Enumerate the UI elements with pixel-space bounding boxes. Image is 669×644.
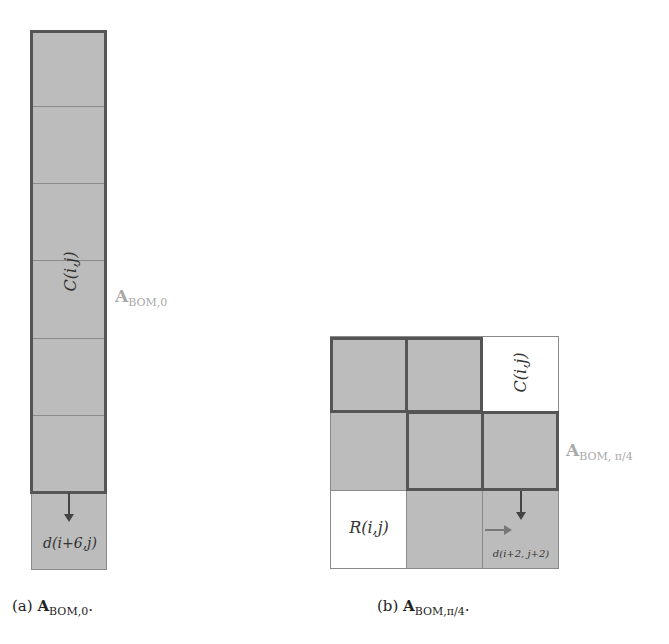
caption-b: (b) ABOM,π/4. bbox=[377, 597, 470, 618]
dependency-label: d(i+6,j) bbox=[33, 535, 107, 551]
matrix-label-sub: BOM,0 bbox=[128, 296, 167, 309]
caption-suffix: . bbox=[465, 597, 470, 615]
matrix-label-main: A bbox=[115, 286, 128, 306]
caption-prefix: (b) bbox=[377, 597, 398, 615]
block-outline-cell-0-0 bbox=[330, 337, 408, 413]
matrix-label-sub: BOM, π/4 bbox=[579, 450, 633, 463]
dependency-arrow-down bbox=[68, 493, 70, 515]
block-label-r: R(i,j) bbox=[333, 518, 405, 537]
dependency-label: d(i+2, j+2) bbox=[484, 548, 558, 559]
caption-a: (a) ABOM,0. bbox=[12, 597, 93, 618]
caption-sub: BOM,π/4 bbox=[415, 605, 465, 618]
grid-cell-2-1 bbox=[406, 490, 483, 569]
caption-main: A bbox=[37, 597, 49, 615]
caption-suffix: . bbox=[88, 597, 93, 615]
matrix-label-a: ABOM,0 bbox=[115, 286, 167, 309]
dependency-arrow-right bbox=[485, 529, 505, 531]
caption-sub: BOM,0 bbox=[49, 605, 88, 618]
dependency-arrow-down bbox=[520, 491, 522, 513]
caption-prefix: (a) bbox=[12, 597, 33, 615]
block-label-c: C(i,j) bbox=[61, 237, 80, 307]
caption-main: A bbox=[403, 597, 415, 615]
grid-cell-1-0 bbox=[330, 412, 407, 491]
matrix-label-b: ABOM, π/4 bbox=[566, 440, 633, 463]
matrix-label-main: A bbox=[566, 440, 579, 460]
block-label-c: C(i,j) bbox=[511, 338, 530, 408]
block-outline-cell-1-1 bbox=[406, 411, 484, 491]
